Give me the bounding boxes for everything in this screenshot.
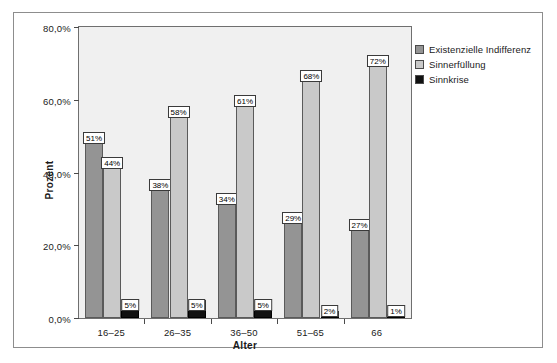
- bar: [151, 180, 169, 318]
- bar-value-label: 5%: [188, 299, 206, 311]
- x-axis-tick-mark: [144, 319, 145, 324]
- y-axis-title: Prozent: [44, 161, 55, 200]
- x-axis-tick-label: 36–50: [211, 327, 277, 338]
- bar-value-label: 29%: [282, 212, 304, 224]
- legend-swatch: [415, 60, 424, 69]
- legend-label: Existenzielle Indifferenz: [429, 44, 531, 55]
- bar-value-label: 58%: [168, 106, 190, 118]
- y-axis-tick-mark: [74, 100, 79, 101]
- bar-value-label: 34%: [216, 193, 238, 205]
- bar-value-label: 72%: [367, 55, 389, 67]
- bar: [218, 194, 236, 318]
- bar: [351, 220, 369, 318]
- bar: [236, 96, 254, 318]
- y-axis-tick-mark: [74, 27, 79, 28]
- plot-area: 51%44%5%38%58%5%34%61%5%29%68%2%27%72%1%…: [78, 26, 412, 319]
- x-axis-tick-mark: [277, 319, 278, 324]
- y-axis-tick-label: 0,0%: [49, 314, 71, 325]
- y-axis-tick-mark: [74, 245, 79, 246]
- x-axis-tick-label: 66: [344, 327, 410, 338]
- bar-value-label: 61%: [234, 95, 256, 107]
- bar-value-label: 5%: [254, 299, 272, 311]
- bar-value-label: 2%: [321, 305, 339, 317]
- bar: [284, 213, 302, 318]
- legend: Existenzielle IndifferenzSinnerfüllungSi…: [415, 43, 543, 88]
- bar-value-label: 44%: [101, 157, 123, 169]
- x-axis-tick-mark: [344, 319, 345, 324]
- bar: [103, 158, 121, 318]
- y-axis-tick-label: 20,0%: [43, 241, 71, 252]
- legend-swatch: [415, 75, 424, 84]
- bars-container: 51%44%5%38%58%5%34%61%5%29%68%2%27%72%1%: [79, 27, 411, 318]
- bar-value-label: 27%: [349, 219, 371, 231]
- y-axis-tick-label: 60,0%: [43, 96, 71, 107]
- x-axis-tick-mark: [211, 319, 212, 324]
- legend-item: Sinnerfüllung: [415, 58, 543, 71]
- bar: [302, 71, 320, 318]
- bar-value-label: 68%: [300, 70, 322, 82]
- bar-value-label: 38%: [149, 179, 171, 191]
- y-axis-tick-label: 80,0%: [43, 23, 71, 34]
- legend-label: Sinnkrise: [429, 74, 469, 85]
- bar: [369, 56, 387, 318]
- y-axis-tick-mark: [74, 173, 79, 174]
- x-axis-tick-label: 16–25: [78, 327, 144, 338]
- legend-label: Sinnerfüllung: [429, 59, 486, 70]
- legend-item: Sinnkrise: [415, 73, 543, 86]
- x-axis-tick-label: 51–65: [277, 327, 343, 338]
- legend-swatch: [415, 45, 424, 54]
- chart-figure: 51%44%5%38%58%5%34%61%5%29%68%2%27%72%1%…: [13, 12, 543, 348]
- bar-value-label: 5%: [122, 299, 140, 311]
- x-axis-tick-label: 26–35: [144, 327, 210, 338]
- legend-item: Existenzielle Indifferenz: [415, 43, 543, 56]
- x-axis-title: Alter: [78, 340, 412, 351]
- bar: [170, 107, 188, 318]
- bar-value-label: 1%: [387, 305, 405, 317]
- x-axis: 16–2526–3536–5051–6566: [78, 319, 412, 359]
- bar-value-label: 51%: [83, 132, 105, 144]
